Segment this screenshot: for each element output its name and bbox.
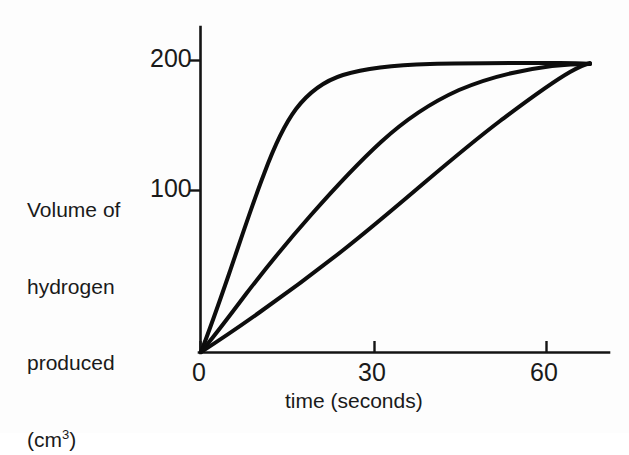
y-axis-title-line-3: produced [27, 350, 120, 376]
y-axis-unit-prefix: (cm [27, 428, 62, 451]
y-axis-unit-suffix: ) [69, 428, 76, 451]
y-axis-tick-label-100: 100 [150, 174, 192, 202]
y-axis-title-line-2: hydrogen [27, 274, 120, 300]
x-axis-title: time (seconds) [285, 388, 423, 413]
y-axis-title-line-4: (cm3) [27, 427, 120, 453]
y-axis-title: Volume of hydrogen produced (cm3) [27, 146, 120, 455]
x-axis-tick-label-30: 30 [358, 358, 386, 386]
y-axis-tick-label-200: 200 [150, 44, 192, 72]
x-axis-tick-label-60: 60 [530, 358, 558, 386]
y-axis-title-line-1: Volume of [27, 197, 120, 223]
x-axis-tick-label-0: 0 [192, 358, 206, 386]
curve-slowest-reaction [201, 63, 590, 352]
